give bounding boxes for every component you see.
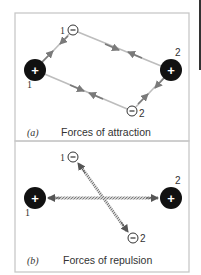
svg-text:1: 1 (25, 207, 30, 218)
repulsion-forces (48, 163, 158, 232)
svg-text:1: 1 (60, 152, 65, 163)
positive-charge-2: + 2 (160, 47, 182, 81)
panel-b-letter: (b) (27, 255, 39, 267)
panel-a-caption: Forces of attraction (61, 126, 151, 138)
svg-text:2: 2 (139, 108, 145, 119)
coulomb-force-diagram: + 1 1 + 2 2 (a) Forces of attraction (0, 0, 201, 275)
svg-text:+: + (167, 191, 175, 206)
positive-charge-2: + 2 (160, 175, 182, 209)
positive-charge-1: + 1 (24, 59, 46, 90)
svg-text:2: 2 (140, 233, 146, 244)
negative-charge-2: 2 (128, 233, 146, 244)
negative-charge-1: 1 (60, 152, 78, 163)
svg-text:2: 2 (175, 47, 181, 58)
svg-text:+: + (167, 63, 175, 78)
panel-b: + 1 1 + 2 2 (b) Forces of repulsion (15, 141, 189, 272)
panel-b-caption: Forces of repulsion (63, 254, 152, 266)
negative-charge-2: 2 (127, 106, 145, 119)
panel-a-letter: (a) (27, 127, 39, 139)
positive-charge-1: + 1 (24, 187, 46, 218)
svg-text:+: + (31, 191, 39, 206)
svg-text:2: 2 (175, 175, 181, 186)
attraction-arrowheads (42, 36, 165, 104)
svg-text:1: 1 (60, 25, 65, 36)
svg-text:+: + (31, 63, 39, 78)
panel-a: + 1 1 + 2 2 (a) Forces of attraction (15, 13, 189, 141)
svg-text:1: 1 (27, 79, 32, 90)
